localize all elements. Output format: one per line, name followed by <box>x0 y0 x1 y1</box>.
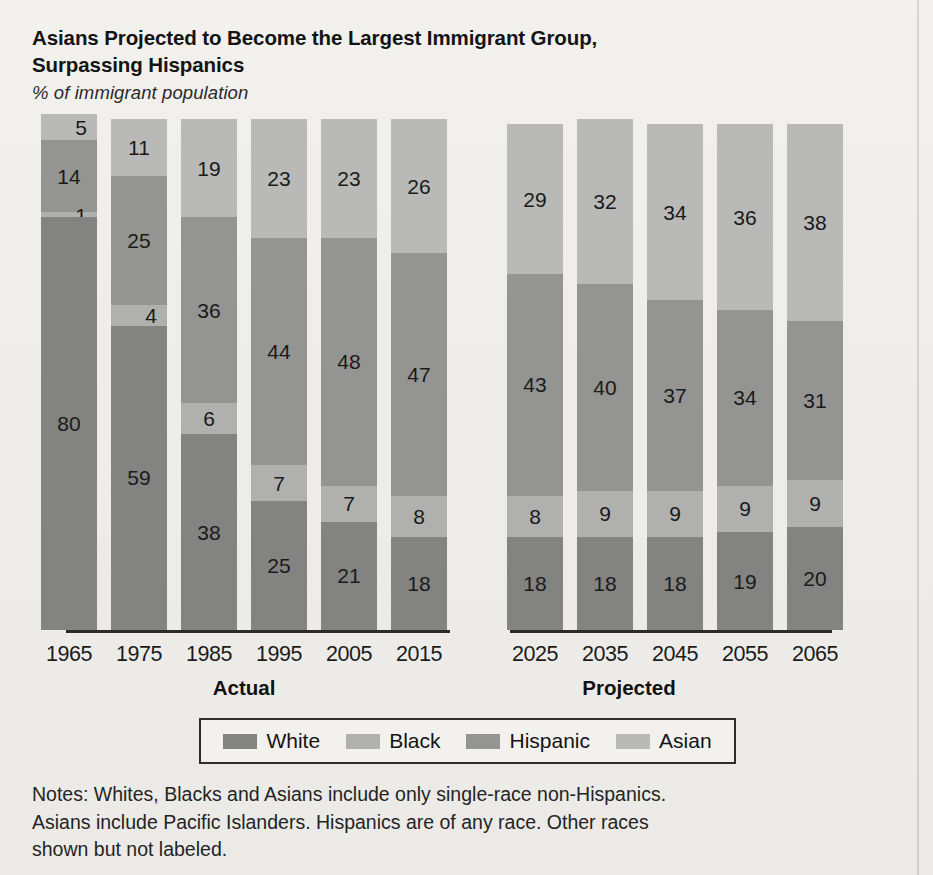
axis-lines <box>32 630 903 636</box>
segment-value-label: 47 <box>407 364 430 385</box>
segment-black-1975: 4 <box>111 305 167 326</box>
segment-value-label: 34 <box>733 387 756 408</box>
group-labels: Actual Projected <box>32 676 903 700</box>
segment-black-1985: 6 <box>181 403 237 434</box>
segment-asian-1985: 19 <box>181 119 237 217</box>
bar-2015: 2647818 <box>391 119 447 630</box>
legend-label: Asian <box>659 729 712 753</box>
segment-hispanic-2045: 37 <box>647 300 703 491</box>
bars-actual: 5141801125459193663823447252348721264781… <box>34 114 454 630</box>
segment-value-label: 8 <box>529 506 541 527</box>
group-label-actual: Actual <box>34 676 454 700</box>
segment-value-label: 23 <box>337 168 360 189</box>
x-tick-2025: 2025 <box>507 642 563 667</box>
segment-hispanic-2055: 34 <box>717 310 773 485</box>
segment-value-label: 9 <box>599 503 611 524</box>
segment-asian-2065: 38 <box>787 124 843 320</box>
segment-white-2025: 18 <box>507 537 563 630</box>
segment-value-label: 20 <box>803 568 826 589</box>
chart-notes: Notes: Whites, Blacks and Asians include… <box>32 781 752 864</box>
segment-white-2065: 20 <box>787 527 843 630</box>
segment-value-label: 31 <box>803 390 826 411</box>
bars-projected: 29438183240918343791836349193831920 <box>500 114 850 630</box>
chart-title: Asians Projected to Become the Largest I… <box>32 24 672 78</box>
x-tick-1965: 1965 <box>41 642 97 667</box>
segment-hispanic-2025: 43 <box>507 274 563 496</box>
segment-value-label: 9 <box>809 493 821 514</box>
segment-value-label: 7 <box>343 493 355 514</box>
group-label-projected: Projected <box>454 676 804 700</box>
segment-value-label: 18 <box>593 573 616 594</box>
segment-asian-2045: 34 <box>647 124 703 299</box>
legend-row: WhiteBlackHispanicAsian <box>32 718 903 764</box>
x-tick-2045: 2045 <box>647 642 703 667</box>
segment-value-label: 44 <box>267 341 290 362</box>
segment-value-label: 9 <box>669 503 681 524</box>
segment-black-2035: 9 <box>577 491 633 537</box>
segment-value-label: 19 <box>197 158 220 179</box>
segment-white-2045: 18 <box>647 537 703 630</box>
segment-value-label: 14 <box>57 166 80 187</box>
legend-label: Hispanic <box>509 729 590 753</box>
legend-swatch-black-icon <box>346 734 380 749</box>
x-axis-ticks: 196519751985199520052015 202520352045205… <box>32 642 903 667</box>
legend-item-black[interactable]: Black <box>346 729 440 753</box>
bar-2065: 3831920 <box>787 124 843 630</box>
segment-value-label: 8 <box>413 506 425 527</box>
segment-white-1985: 38 <box>181 434 237 630</box>
segment-black-2015: 8 <box>391 496 447 537</box>
segment-black-2055: 9 <box>717 486 773 532</box>
segment-hispanic-2065: 31 <box>787 321 843 481</box>
legend-item-hispanic[interactable]: Hispanic <box>466 729 590 753</box>
notes-line-3: shown but not labeled. <box>32 836 752 864</box>
plot-area: 5141801125459193663823447252348721264781… <box>32 114 903 630</box>
segment-value-label: 21 <box>337 565 360 586</box>
segment-value-label: 19 <box>733 571 756 592</box>
segment-value-label: 36 <box>197 300 220 321</box>
bar-2045: 3437918 <box>647 124 703 630</box>
segment-value-label: 18 <box>407 573 430 594</box>
segment-asian-2005: 23 <box>321 119 377 238</box>
legend-swatch-asian-icon <box>616 734 650 749</box>
segment-black-2025: 8 <box>507 496 563 537</box>
segment-asian-2055: 36 <box>717 124 773 310</box>
segment-hispanic-1965: 14 <box>41 140 97 212</box>
chart-figure: Asians Projected to Become the Largest I… <box>0 0 933 875</box>
segment-value-label: 25 <box>127 230 150 251</box>
segment-white-1965: 80 <box>41 217 97 630</box>
segment-value-label: 26 <box>407 176 430 197</box>
segment-asian-1995: 23 <box>251 119 307 238</box>
segment-hispanic-1975: 25 <box>111 176 167 305</box>
segment-white-2055: 19 <box>717 532 773 630</box>
segment-value-label: 18 <box>663 573 686 594</box>
page-edge-rule <box>917 0 919 875</box>
bar-2035: 3240918 <box>577 119 633 630</box>
segment-hispanic-1985: 36 <box>181 217 237 403</box>
segment-value-label: 7 <box>273 473 285 494</box>
segment-value-label: 5 <box>75 116 87 137</box>
segment-white-1975: 59 <box>111 326 167 630</box>
segment-value-label: 23 <box>267 168 290 189</box>
legend-swatch-hispanic-icon <box>466 734 500 749</box>
segment-black-1995: 7 <box>251 465 307 501</box>
x-tick-2065: 2065 <box>787 642 843 667</box>
segment-value-label: 32 <box>593 191 616 212</box>
segment-black-2045: 9 <box>647 491 703 537</box>
segment-value-label: 48 <box>337 351 360 372</box>
segment-value-label: 59 <box>127 467 150 488</box>
bar-1975: 1125459 <box>111 119 167 630</box>
x-tick-2005: 2005 <box>321 642 377 667</box>
segment-asian-2015: 26 <box>391 119 447 253</box>
segment-value-label: 36 <box>733 207 756 228</box>
x-tick-1985: 1985 <box>181 642 237 667</box>
legend-item-asian[interactable]: Asian <box>616 729 712 753</box>
segment-white-2015: 18 <box>391 537 447 630</box>
notes-line-2: Asians include Pacific Islanders. Hispan… <box>32 809 752 837</box>
legend-item-white[interactable]: White <box>223 729 320 753</box>
x-ticks-actual: 196519751985199520052015 <box>34 642 454 667</box>
notes-line-1: Notes: Whites, Blacks and Asians include… <box>32 781 752 809</box>
segment-value-label: 37 <box>663 385 686 406</box>
chart-title-line1: Asians Projected to Become the Largest I… <box>32 26 597 49</box>
segment-value-label: 29 <box>523 189 546 210</box>
segment-value-label: 34 <box>663 202 686 223</box>
